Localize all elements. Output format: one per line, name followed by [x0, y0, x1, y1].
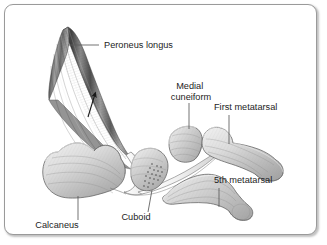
anatomy-illustration: Peroneus longus Medial cuneiform First m…: [0, 0, 327, 245]
medial-cuneiform-bone: [169, 126, 202, 162]
label-medial-cuneiform: Medial cuneiform: [171, 81, 212, 102]
calcaneus-bone: [43, 143, 126, 198]
label-medial-cuneiform-line1: Medial: [176, 81, 203, 91]
anatomy-figure: Peroneus longus Medial cuneiform First m…: [0, 0, 327, 245]
label-calcaneus: Calcaneus: [35, 220, 79, 230]
first-metatarsal-bone: [202, 127, 283, 181]
label-medial-cuneiform-line2: cuneiform: [171, 92, 212, 102]
label-cuboid: Cuboid: [121, 212, 150, 222]
label-first-metatarsal: First metatarsal: [214, 102, 277, 112]
label-fifth-metatarsal: 5th metatarsal: [214, 175, 272, 185]
leader-cuboid: [148, 190, 152, 212]
label-peroneus-longus: Peroneus longus: [104, 40, 173, 50]
